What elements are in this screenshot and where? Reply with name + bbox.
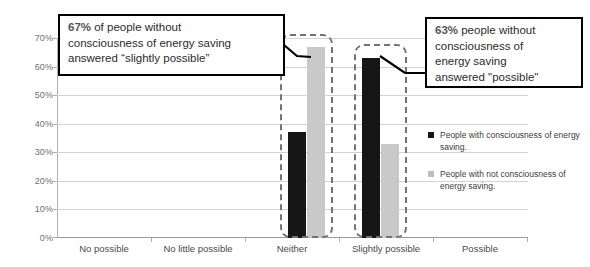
callout-left-line2: consciousness of energy saving xyxy=(68,36,276,52)
callout-right-line2: consciousness of xyxy=(435,39,574,55)
callout-left-line1: 67% of people without xyxy=(68,20,276,36)
callout-left-percent: 67% xyxy=(68,21,91,33)
callout-right-line1-rest: people without xyxy=(458,24,535,36)
callout-right-percent: 63% xyxy=(435,24,458,36)
callout-right: 63% people without consciousness of ener… xyxy=(425,17,583,88)
leader-line-left xyxy=(284,45,311,57)
callout-right-line1: 63% people without xyxy=(435,23,574,39)
callout-left: 67% of people without consciousness of e… xyxy=(58,14,285,76)
callout-left-line3: answered “slightly possible” xyxy=(68,51,276,67)
chart-screenshot: 70% 60% 50% 40% 30% 20% 10% 0% xyxy=(0,0,590,267)
callout-left-line1-rest: of people without xyxy=(91,21,181,33)
callout-right-line4: answered "possible" xyxy=(435,70,574,86)
leader-line-right xyxy=(380,56,425,73)
callout-right-line3: energy saving xyxy=(435,54,574,70)
